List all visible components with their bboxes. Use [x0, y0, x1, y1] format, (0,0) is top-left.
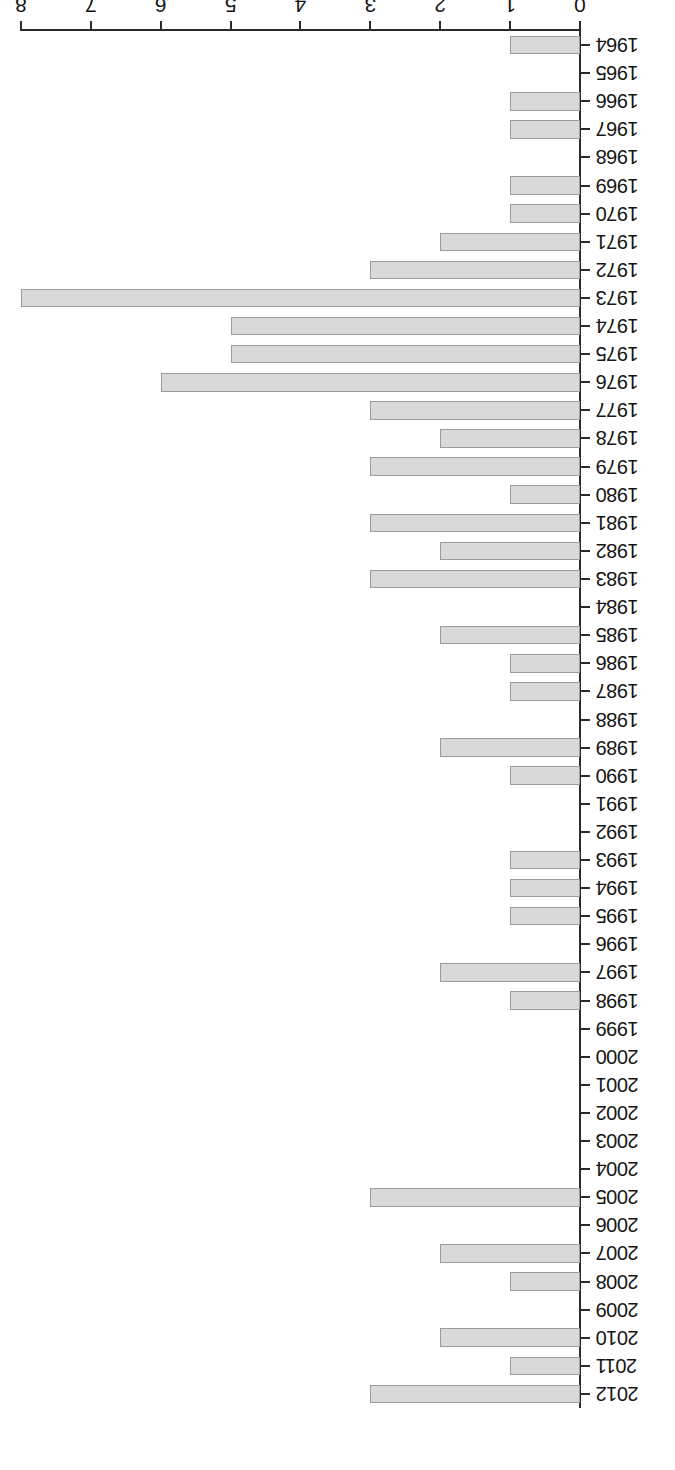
bar-row: 2007 — [21, 1239, 580, 1267]
category-tick — [581, 72, 590, 74]
category-tick — [581, 971, 590, 973]
category-tick — [581, 1196, 590, 1198]
bar-1979 — [370, 457, 580, 476]
category-tick — [581, 381, 590, 383]
category-tick — [581, 100, 590, 102]
bar-row: 1981 — [21, 509, 580, 537]
category-label-2006: 2006 — [596, 1215, 658, 1235]
bar-row: 1996 — [21, 930, 580, 958]
bar-2008 — [510, 1272, 580, 1291]
category-tick — [581, 1056, 590, 1058]
category-tick — [581, 241, 590, 243]
category-tick — [581, 437, 590, 439]
category-label-1968: 1968 — [596, 147, 658, 167]
bar-row: 2002 — [21, 1099, 580, 1127]
category-label-1979: 1979 — [596, 457, 658, 477]
bar-row: 1985 — [21, 621, 580, 649]
bar-row: 1970 — [21, 200, 580, 228]
bar-row: 1995 — [21, 902, 580, 930]
category-label-2005: 2005 — [596, 1187, 658, 1207]
category-tick — [581, 213, 590, 215]
category-label-1980: 1980 — [596, 485, 658, 505]
bar-row: 2008 — [21, 1268, 580, 1296]
category-label-1976: 1976 — [596, 372, 658, 392]
bar-2007 — [440, 1244, 580, 1263]
category-label-1999: 1999 — [596, 1019, 658, 1039]
category-label-1990: 1990 — [596, 766, 658, 786]
bar-2012 — [370, 1385, 580, 1404]
category-label-1984: 1984 — [596, 597, 658, 617]
category-tick — [581, 297, 590, 299]
bar-row: 2003 — [21, 1127, 580, 1155]
category-tick — [581, 1393, 590, 1395]
value-tick-label-0: 0 — [560, 0, 600, 16]
category-label-1986: 1986 — [596, 653, 658, 673]
value-tick-4 — [300, 21, 302, 31]
category-label-2000: 2000 — [596, 1047, 658, 1067]
category-tick — [581, 690, 590, 692]
category-label-1991: 1991 — [596, 794, 658, 814]
category-tick — [581, 1337, 590, 1339]
bar-1976 — [161, 373, 580, 392]
category-label-1997: 1997 — [596, 962, 658, 982]
bar-1966 — [510, 92, 580, 111]
bar-chart-figure: 2012201120102009200820072006200520042003… — [0, 0, 675, 1470]
category-tick — [581, 803, 590, 805]
category-tick — [581, 747, 590, 749]
value-tick-1 — [509, 21, 511, 31]
value-tick-8 — [20, 21, 22, 31]
category-label-1965: 1965 — [596, 63, 658, 83]
category-tick — [581, 719, 590, 721]
category-label-1982: 1982 — [596, 541, 658, 561]
category-tick — [581, 1281, 590, 1283]
value-tick-label-6: 6 — [141, 0, 181, 16]
category-tick — [581, 943, 590, 945]
bar-row: 1966 — [21, 87, 580, 115]
bar-row: 1990 — [21, 762, 580, 790]
category-label-1969: 1969 — [596, 176, 658, 196]
bar-row: 1998 — [21, 986, 580, 1014]
bar-1990 — [510, 766, 580, 785]
value-tick-label-8: 8 — [1, 0, 41, 16]
category-label-2003: 2003 — [596, 1131, 658, 1151]
category-label-1995: 1995 — [596, 906, 658, 926]
category-label-1970: 1970 — [596, 204, 658, 224]
category-tick — [581, 128, 590, 130]
value-tick-2 — [439, 21, 441, 31]
value-tick-label-4: 4 — [281, 0, 321, 16]
category-tick — [581, 887, 590, 889]
category-label-1992: 1992 — [596, 822, 658, 842]
category-label-1985: 1985 — [596, 625, 658, 645]
category-tick — [581, 915, 590, 917]
value-tick-3 — [369, 21, 371, 31]
category-label-2004: 2004 — [596, 1159, 658, 1179]
value-tick-7 — [90, 21, 92, 31]
category-tick — [581, 831, 590, 833]
category-tick — [581, 156, 590, 158]
category-tick — [581, 1309, 590, 1311]
bar-1975 — [231, 345, 580, 364]
category-tick — [581, 859, 590, 861]
value-tick-6 — [160, 21, 162, 31]
bar-1993 — [510, 851, 580, 870]
category-label-1967: 1967 — [596, 119, 658, 139]
category-label-1972: 1972 — [596, 260, 658, 280]
category-label-1998: 1998 — [596, 991, 658, 1011]
category-tick — [581, 606, 590, 608]
bar-row: 2005 — [21, 1183, 580, 1211]
value-tick-label-5: 5 — [211, 0, 251, 16]
bar-1981 — [370, 514, 580, 533]
bar-row: 1972 — [21, 256, 580, 284]
category-label-1988: 1988 — [596, 710, 658, 730]
plot-area: 2012201120102009200820072006200520042003… — [21, 31, 580, 1408]
bar-row: 1973 — [21, 284, 580, 312]
bar-1997 — [440, 963, 580, 982]
category-label-2012: 2012 — [596, 1384, 658, 1404]
bar-row: 2011 — [21, 1352, 580, 1380]
bar-row: 1988 — [21, 705, 580, 733]
bar-1994 — [510, 879, 580, 898]
value-tick-label-3: 3 — [350, 0, 390, 16]
category-label-1973: 1973 — [596, 288, 658, 308]
bar-1970 — [510, 204, 580, 223]
category-tick — [581, 1000, 590, 1002]
